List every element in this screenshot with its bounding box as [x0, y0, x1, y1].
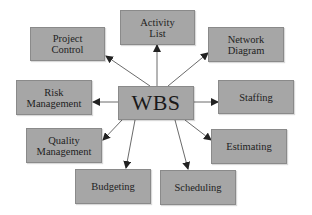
node-risk-management: Risk Management	[16, 80, 92, 115]
node-label: Project Control	[51, 33, 83, 55]
wbs-diagram: Activity List Project Control Network Di…	[0, 0, 312, 215]
edge-quality-management	[103, 120, 122, 140]
edge-scheduling	[175, 120, 188, 169]
center-label: WBS	[131, 91, 180, 115]
edge-project-control	[106, 56, 150, 86]
node-label: Network Diagram	[228, 34, 265, 56]
node-budgeting: Budgeting	[75, 169, 151, 204]
node-staffing: Staffing	[218, 80, 294, 114]
node-label: Scheduling	[174, 182, 221, 193]
node-label: Risk Management	[27, 87, 82, 109]
edge-budgeting	[126, 120, 135, 168]
node-label: Estimating	[226, 141, 272, 152]
node-label: Budgeting	[91, 181, 135, 192]
edge-estimating	[185, 120, 211, 140]
node-project-control: Project Control	[30, 27, 105, 61]
node-label: Quality Management	[37, 135, 92, 157]
node-label: Staffing	[239, 92, 273, 103]
node-network-diagram: Network Diagram	[208, 27, 284, 62]
node-wbs-center: WBS	[118, 86, 194, 120]
node-estimating: Estimating	[211, 129, 287, 164]
edge-network-diagram	[168, 53, 208, 86]
node-quality-management: Quality Management	[26, 128, 102, 163]
node-label: Activity List	[140, 17, 174, 39]
node-activity-list: Activity List	[120, 10, 195, 45]
node-scheduling: Scheduling	[160, 170, 236, 205]
